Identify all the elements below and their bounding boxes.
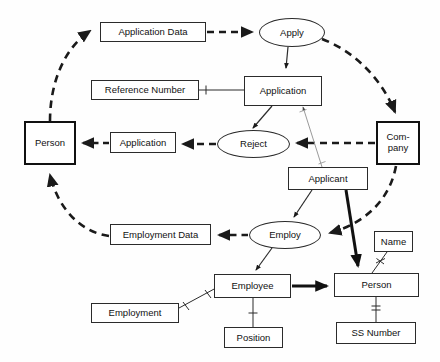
edge-person-to-application-data xyxy=(50,31,90,121)
node-application-message[interactable]: Application xyxy=(110,132,176,153)
node-label: Application xyxy=(120,138,166,148)
node-name[interactable]: Name xyxy=(374,231,413,252)
diagram-canvas: Application Data Apply Reference Number … xyxy=(0,0,440,362)
node-label: Employee xyxy=(231,281,273,291)
node-employment-data[interactable]: Employment Data xyxy=(110,224,211,245)
node-label: Person xyxy=(35,138,65,148)
edge-person-bottom-to-ss-number xyxy=(372,297,381,322)
edge-name-to-person-bottom xyxy=(372,252,387,273)
node-employee[interactable]: Employee xyxy=(214,274,291,298)
edge-applicant-to-application xyxy=(300,107,326,167)
node-label-line2: pany xyxy=(388,143,409,154)
node-label: Employment xyxy=(109,308,162,318)
node-label: SS Number xyxy=(351,328,400,338)
node-reference-number[interactable]: Reference Number xyxy=(91,80,199,100)
node-label: Application xyxy=(260,86,306,96)
node-label: Name xyxy=(381,237,406,247)
edge-employee-to-position xyxy=(249,298,258,327)
node-label: Reject xyxy=(240,139,267,149)
edge-employ-to-employee xyxy=(256,248,272,270)
node-apply[interactable]: Apply xyxy=(259,18,325,47)
node-position[interactable]: Position xyxy=(224,327,283,348)
edge-reference-number-to-application xyxy=(199,86,244,95)
edge-applicant-to-person-bottom xyxy=(346,190,358,266)
node-reject[interactable]: Reject xyxy=(217,130,290,158)
edge-apply-to-company xyxy=(322,39,395,112)
node-label: Employ xyxy=(269,230,301,240)
node-employ[interactable]: Employ xyxy=(249,221,321,249)
node-label: Reference Number xyxy=(105,85,185,95)
node-person-bottom[interactable]: Person xyxy=(334,273,419,297)
node-company[interactable]: Com- pany xyxy=(376,121,420,165)
diagram-connectors xyxy=(0,0,440,362)
edge-application-to-reject xyxy=(253,106,272,128)
node-label: Applicant xyxy=(308,174,347,184)
node-label: Person xyxy=(361,280,391,290)
edge-apply-to-application xyxy=(286,47,288,68)
node-applicant[interactable]: Applicant xyxy=(288,167,368,190)
node-person-left[interactable]: Person xyxy=(24,121,76,165)
node-label: Employment Data xyxy=(123,230,199,240)
edge-applicant-to-employ xyxy=(294,190,312,217)
node-application-data[interactable]: Application Data xyxy=(100,22,206,42)
node-ss-number[interactable]: SS Number xyxy=(336,322,416,344)
node-label: Position xyxy=(237,333,271,343)
node-employment[interactable]: Employment xyxy=(91,303,179,323)
node-label: Application Data xyxy=(118,27,187,37)
edge-employment-data-to-person xyxy=(50,175,109,236)
node-application-entity[interactable]: Application xyxy=(244,76,322,106)
edge-employment-to-employee xyxy=(179,288,216,310)
node-label: Apply xyxy=(280,28,304,38)
